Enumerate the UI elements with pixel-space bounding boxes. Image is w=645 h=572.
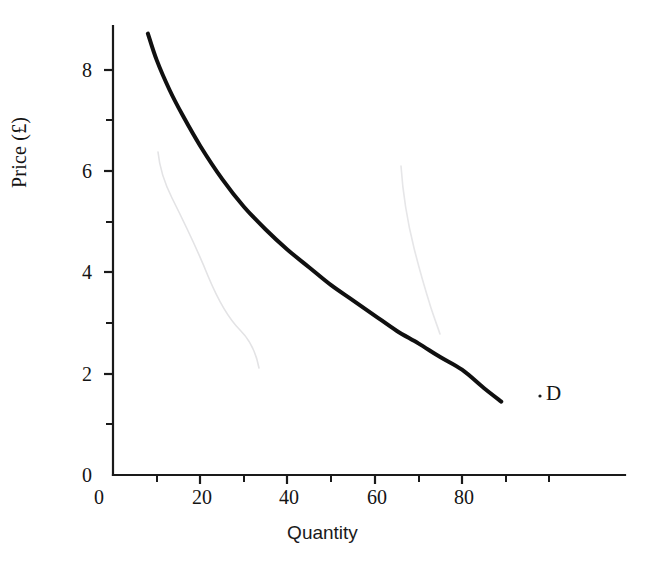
y-tick-label-2: 2 — [58, 364, 92, 384]
x-tick-label-20: 20 — [192, 487, 212, 507]
x-tick-label-0: 0 — [94, 487, 104, 507]
scan-crease-left-icon — [158, 152, 259, 368]
y-tick-label-8: 8 — [58, 60, 92, 80]
y-tick-label-6: 6 — [58, 161, 92, 181]
x-axis-title: Quantity — [0, 522, 645, 544]
y-axis-title: Price (£) — [8, 48, 31, 188]
curve-end-dot — [538, 394, 541, 397]
y-tick-label-0: 0 — [58, 465, 92, 485]
demand-curve-label: D — [546, 381, 561, 406]
x-tick-label-80: 80 — [454, 487, 474, 507]
demand-curve-figure: 0 2 4 6 8 0 20 40 60 80 Price (£) Quanti… — [0, 0, 645, 572]
x-tick-label-40: 40 — [279, 487, 299, 507]
y-tick-label-4: 4 — [58, 262, 92, 282]
x-tick-label-60: 60 — [367, 487, 387, 507]
scan-crease-right-icon — [401, 166, 440, 334]
demand-curve-line — [148, 34, 501, 402]
